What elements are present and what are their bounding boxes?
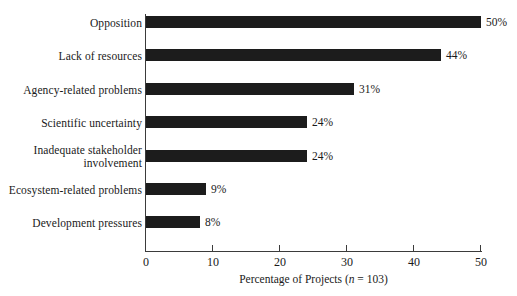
bar-value-label: 8%	[205, 216, 220, 228]
bar-value-label: 9%	[211, 183, 226, 195]
bar-value-label: 24%	[312, 116, 333, 128]
bar	[146, 83, 354, 95]
bar	[146, 116, 307, 128]
x-axis-title-prefix: Percentage of Projects (	[239, 273, 349, 285]
bar	[146, 183, 206, 195]
x-axis-tick	[346, 245, 347, 251]
x-axis-tick-label: 40	[394, 255, 434, 269]
bar-value-label: 31%	[359, 83, 380, 95]
category-label: Ecosystem-related problems	[9, 184, 142, 197]
x-axis-tick-label: 50	[461, 255, 501, 269]
x-axis-line	[145, 251, 482, 252]
category-label: Scientific uncertainty	[41, 117, 142, 130]
x-axis-tick-label: 20	[260, 255, 300, 269]
bar	[146, 49, 441, 61]
bar-value-label: 24%	[312, 150, 333, 162]
category-label: Opposition	[90, 17, 142, 30]
x-axis-tick-label: 10	[193, 255, 233, 269]
bar	[146, 16, 481, 28]
x-axis-title: Percentage of Projects (n = 103)	[145, 272, 482, 286]
category-label: Agency-related problems	[23, 84, 142, 97]
category-label: Development pressures	[32, 217, 142, 230]
x-axis-tick-label: 30	[327, 255, 367, 269]
bar	[146, 150, 307, 162]
bar-value-label: 50%	[486, 16, 507, 28]
bar-chart: Opposition Lack of resources Agency-rela…	[0, 0, 517, 296]
category-label: Inadequate stakeholder involvement	[33, 144, 142, 169]
x-axis-tick	[279, 245, 280, 251]
x-axis-tick	[212, 245, 213, 251]
x-axis-tick	[413, 245, 414, 251]
bar	[146, 216, 200, 228]
y-axis-line	[145, 14, 146, 252]
x-axis-tick	[145, 245, 146, 251]
x-axis-title-suffix: = 103)	[354, 273, 387, 285]
x-axis-tick-label: 0	[126, 255, 166, 269]
bar-value-label: 44%	[446, 49, 467, 61]
category-label: Lack of resources	[59, 50, 142, 63]
x-axis-tick	[480, 245, 481, 251]
